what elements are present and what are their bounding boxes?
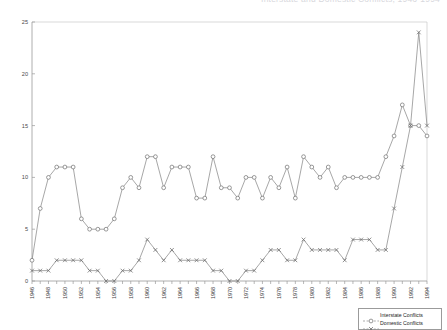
data-point-marker (326, 165, 330, 169)
x-axis-tick-label: 1964 (177, 287, 183, 299)
data-point-marker (293, 196, 297, 200)
data-point-marker (38, 207, 42, 211)
y-axis-tick-label: 15 (22, 123, 28, 129)
x-axis-tick-label: 1960 (144, 287, 150, 299)
data-point-marker (244, 176, 248, 180)
series-line (32, 105, 427, 260)
data-point-marker (162, 186, 166, 190)
data-point-marker (129, 176, 133, 180)
x-axis-tick-label: 1990 (391, 287, 397, 299)
data-point-marker (137, 258, 141, 262)
data-point-marker (145, 155, 149, 159)
data-point-marker (219, 186, 223, 190)
data-point-marker (170, 248, 174, 252)
x-axis-tick-label: 1992 (408, 287, 414, 299)
legend-item: Interstate Conflicts (362, 311, 438, 319)
x-axis-tick-label: 1972 (243, 287, 249, 299)
data-point-marker (384, 155, 388, 159)
data-point-marker (318, 176, 322, 180)
y-axis-tick-label: 25 (22, 19, 28, 25)
data-point-marker (376, 176, 380, 180)
data-point-marker (211, 155, 215, 159)
data-point-marker (302, 238, 306, 242)
data-point-marker (302, 155, 306, 159)
data-point-marker (335, 186, 339, 190)
x-axis-tick-label: 1948 (45, 287, 51, 299)
data-point-marker (30, 258, 34, 262)
x-axis-tick-label: 1978 (292, 287, 298, 299)
x-axis-tick-label: 1966 (194, 287, 200, 299)
data-point-marker (104, 227, 108, 231)
x-axis-tick-label: 1970 (227, 287, 233, 299)
data-point-marker (121, 186, 125, 190)
legend-item: Domestic Conflicts (362, 319, 438, 327)
data-point-marker (277, 186, 281, 190)
x-axis-tick-label: 1988 (375, 287, 381, 299)
y-axis-tick-label: 10 (22, 174, 28, 180)
x-axis-tick-label: 1976 (276, 287, 282, 299)
data-point-marker (261, 196, 265, 200)
data-point-marker (252, 176, 256, 180)
data-point-marker (170, 165, 174, 169)
x-axis-tick-label: 1982 (325, 287, 331, 299)
data-point-marker (351, 176, 355, 180)
data-point-marker (186, 165, 190, 169)
data-point-marker (195, 196, 199, 200)
y-axis-tick-label: 20 (22, 71, 28, 77)
data-point-marker (47, 176, 51, 180)
data-point-marker (96, 227, 100, 231)
data-point-marker (425, 134, 429, 138)
data-point-marker (63, 165, 67, 169)
x-axis-tick-label: 1954 (95, 287, 101, 299)
x-axis-tick-label: 1968 (210, 287, 216, 299)
x-axis-tick-label: 1958 (128, 287, 134, 299)
series-line (32, 32, 427, 281)
data-point-marker (145, 238, 149, 242)
data-point-marker (417, 124, 421, 128)
data-point-marker (343, 258, 347, 262)
data-point-marker (162, 258, 166, 262)
x-axis-tick-label: 1984 (342, 287, 348, 299)
data-point-marker (343, 176, 347, 180)
y-axis-tick-label: 0 (25, 278, 28, 284)
x-axis-tick-label: 1986 (358, 287, 364, 299)
data-point-marker (269, 176, 273, 180)
plot-axes (32, 22, 427, 281)
series-interstate (30, 103, 429, 262)
data-point-marker (71, 165, 75, 169)
x-axis-tick-label: 1994 (424, 287, 430, 299)
x-axis-tick-label: 1952 (78, 287, 84, 299)
chart-legend: Interstate ConflictsDomestic Conflicts (358, 308, 442, 330)
data-point-marker (137, 186, 141, 190)
chart-container: Interstate and Domestic Conflicts, 1946-… (0, 0, 447, 330)
data-point-marker (228, 186, 232, 190)
data-point-marker (236, 196, 240, 200)
data-point-marker (367, 176, 371, 180)
legend-x-icon (362, 319, 380, 327)
data-point-marker (392, 134, 396, 138)
data-point-marker (400, 103, 404, 107)
y-axis-tick-label: 5 (25, 226, 28, 232)
data-point-marker (154, 155, 158, 159)
data-point-marker (112, 217, 116, 221)
line-chart-plot: 0510152025194619481950195219541956195819… (0, 0, 447, 330)
series-domestic (30, 30, 429, 282)
x-axis-tick-label: 1950 (62, 287, 68, 299)
data-point-marker (88, 227, 92, 231)
data-point-marker (310, 165, 314, 169)
data-point-marker (178, 165, 182, 169)
plot-frame (32, 22, 427, 281)
data-point-marker (203, 196, 207, 200)
legend-item-label: Domestic Conflicts (380, 319, 423, 327)
data-point-marker (359, 176, 363, 180)
data-point-marker (154, 248, 158, 252)
x-axis-tick-label: 1974 (259, 287, 265, 299)
x-axis-tick-label: 1980 (309, 287, 315, 299)
data-point-marker (285, 165, 289, 169)
data-point-marker (79, 217, 83, 221)
x-axis-tick-label: 1962 (161, 287, 167, 299)
data-point-marker (55, 165, 59, 169)
legend-item-label: Interstate Conflicts (380, 311, 423, 319)
data-point-marker (261, 258, 265, 262)
x-axis-tick-label: 1946 (29, 287, 35, 299)
